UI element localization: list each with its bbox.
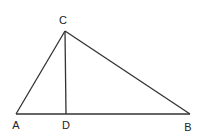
triangle-diagram: C A D B (0, 0, 198, 135)
segment-cd-altitude (65, 31, 66, 114)
label-d: D (62, 119, 70, 131)
segment-ac (16, 31, 65, 114)
label-b: B (184, 121, 191, 133)
segment-cb (65, 31, 190, 114)
label-a: A (12, 119, 20, 131)
label-c: C (59, 14, 67, 26)
